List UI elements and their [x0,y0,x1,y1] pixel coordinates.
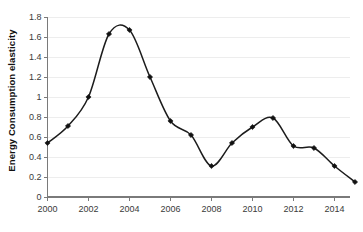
y-tick-label: 0.4 [29,152,42,162]
y-tick-label: 0.6 [29,132,42,142]
x-tick-label: 2006 [160,204,180,214]
y-tick-label: 1.4 [29,52,42,62]
x-tick-label: 2008 [201,204,221,214]
y-tick-label: 1.2 [29,72,42,82]
x-tick-label: 2002 [78,204,98,214]
y-tick-label: 1.8 [29,12,42,22]
y-tick-label: 1.6 [29,32,42,42]
x-tick-label: 2004 [119,204,139,214]
data-point-marker [86,94,91,99]
x-tick-label: 2000 [37,204,57,214]
x-tick-label: 2012 [283,204,303,214]
data-point-marker [147,74,152,79]
chart-container: Energy Consumption elasticity 00.20.40.6… [0,0,363,232]
y-axis-ticks: 00.20.40.60.811.21.41.61.8 [29,12,48,202]
y-tick-label: 1 [36,92,41,102]
x-tick-label: 2014 [324,204,344,214]
x-axis-ticks: 20002002200420062008201020122014 [37,197,344,214]
y-tick-label: 0.8 [29,112,42,122]
gridlines [48,17,351,177]
x-tick-label: 2010 [242,204,262,214]
line-chart-plot: 00.20.40.60.811.21.41.61.8 2000200220042… [0,0,363,232]
series-markers [45,27,358,184]
series-line-energy-consumption-elasticity [48,25,356,182]
y-tick-label: 0.2 [29,172,42,182]
y-tick-label: 0 [36,192,41,202]
